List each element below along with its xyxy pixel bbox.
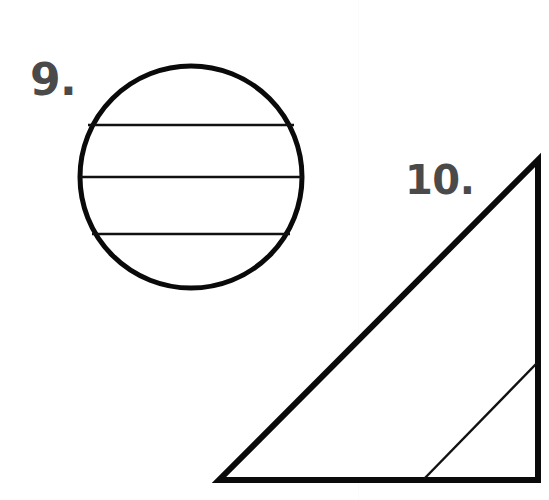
figure-circle-problem-9 — [80, 66, 302, 288]
problem-number-10: 10. — [405, 160, 474, 200]
worksheet-page: 9. 10. — [0, 0, 549, 500]
problem-number-9: 9. — [30, 58, 76, 102]
figures-canvas — [0, 0, 549, 500]
